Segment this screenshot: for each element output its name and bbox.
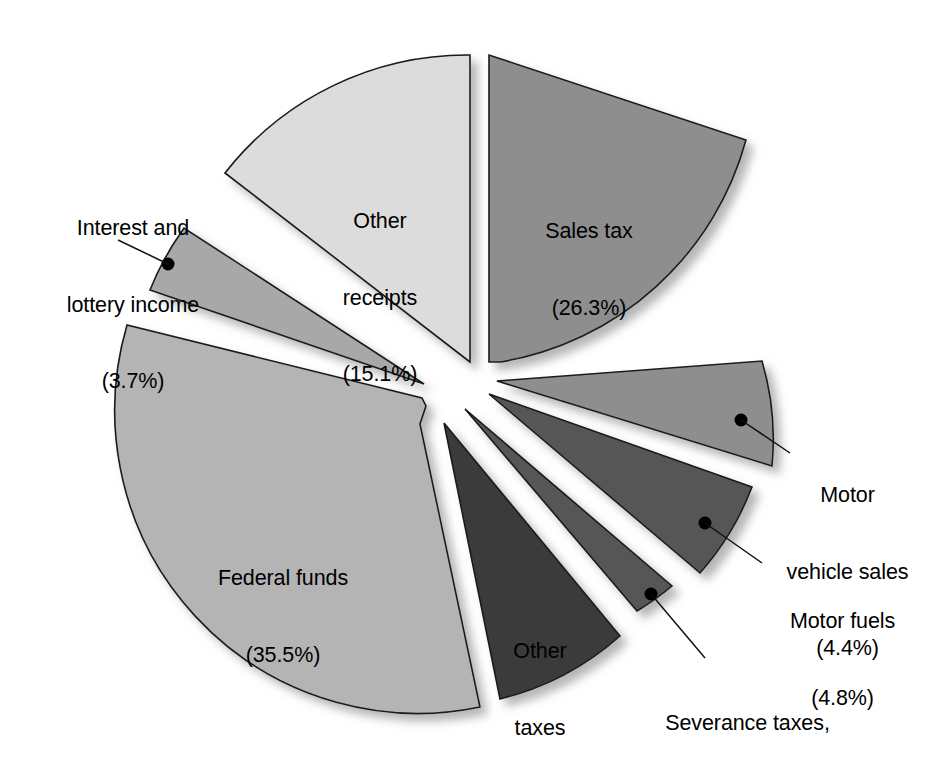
slice-label-other-receipts-value: (15.1%): [290, 362, 470, 388]
slice-label-sales-tax-value: (26.3%): [484, 296, 694, 322]
slice-label-interest-lottery-income-value: (3.7%): [18, 369, 248, 395]
pie-chart: Sales tax (26.3%) Other receipts (15.1%)…: [0, 0, 935, 773]
slice-label-interest-lottery-income-line2: lottery income: [18, 293, 248, 319]
slice-label-other-taxes-line2: taxes: [470, 716, 610, 742]
slice-label-motor-fuels-line1: Motor fuels: [760, 609, 925, 635]
slice-label-other-receipts-line2: receipts: [290, 286, 470, 312]
slice-label-sales-tax-line1: Sales tax: [484, 219, 694, 245]
slice-label-interest-lottery-income: Interest and lottery income (3.7%): [18, 165, 248, 446]
slice-label-other-receipts: Other receipts (15.1%): [290, 158, 470, 439]
slice-label-severance-taxes: Severance taxes, oil and gas (2.5%): [630, 660, 865, 773]
slice-label-federal-funds-line1: Federal funds: [148, 566, 418, 592]
slice-label-other-taxes-line1: Other: [470, 639, 610, 665]
slice-label-federal-funds-value: (35.5%): [148, 643, 418, 669]
slice-label-severance-taxes-line1: Severance taxes,: [630, 711, 865, 737]
slice-label-other-taxes: Other taxes (7.7%): [470, 588, 610, 773]
callout-line-severance-taxes: [651, 594, 705, 658]
slice-label-sales-tax: Sales tax (26.3%): [484, 168, 694, 372]
slice-label-motor-vehicle-sales-line1: Motor: [760, 483, 935, 509]
slice-label-federal-funds: Federal funds (35.5%): [148, 515, 418, 719]
slice-label-other-receipts-line1: Other: [290, 209, 470, 235]
slice-label-interest-lottery-income-line1: Interest and: [18, 216, 248, 242]
